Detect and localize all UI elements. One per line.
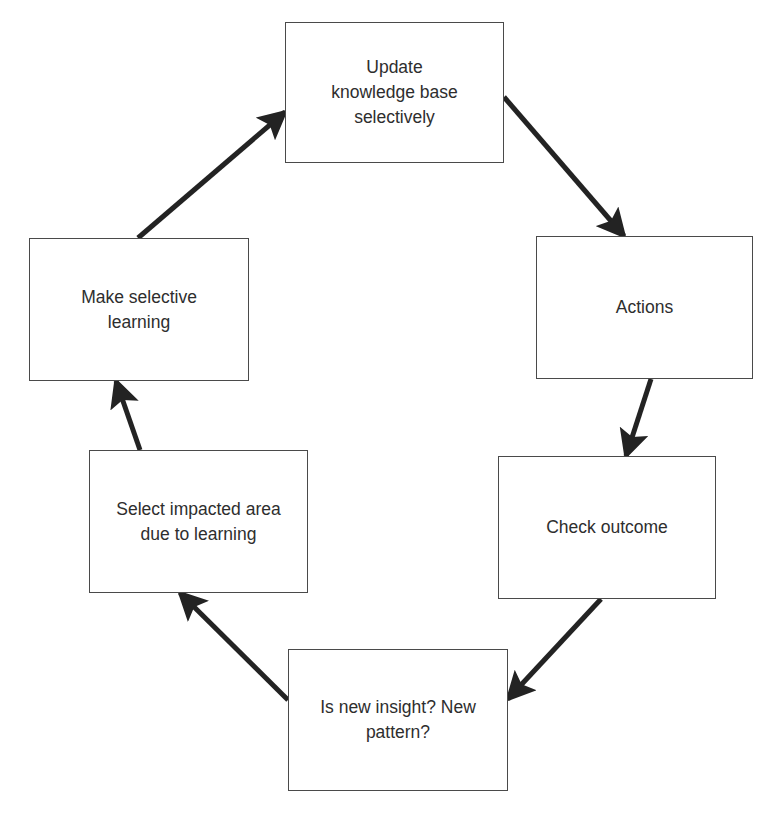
arrow-check-outcome-to-new-insight [508,599,601,699]
arrow-update-kb-to-actions [504,97,624,236]
node-actions: Actions [536,236,753,379]
arrow-new-insight-to-select-impacted [180,593,288,700]
node-label: Update knowledge base selectively [331,55,457,130]
node-label: Select impacted area due to learning [116,497,280,547]
node-label: Make selective learning [81,285,197,335]
node-update-knowledge-base: Update knowledge base selectively [285,22,504,163]
arrow-select-impacted-to-selective-learning [116,381,140,450]
node-label: Actions [616,295,673,320]
node-new-insight: Is new insight? New pattern? [288,649,508,791]
arrow-actions-to-check-outcome [626,379,651,456]
node-select-impacted-area: Select impacted area due to learning [89,450,308,593]
arrow-selective-learning-to-update-kb [138,112,285,238]
node-make-selective-learning: Make selective learning [29,238,249,381]
learning-cycle-diagram: Update knowledge base selectively Action… [0,0,772,814]
node-label: Check outcome [546,515,668,540]
node-check-outcome: Check outcome [498,456,716,599]
node-label: Is new insight? New pattern? [320,695,476,745]
